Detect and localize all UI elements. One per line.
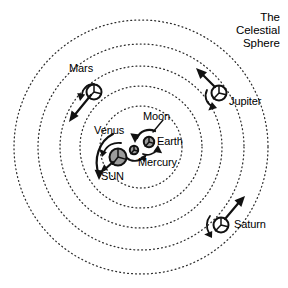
- earth-body-group: [144, 137, 154, 147]
- mercury-label: Mercury: [138, 156, 177, 169]
- figure-title: The Celestial Sphere: [236, 11, 280, 50]
- jupiter-motion-arrow: [196, 68, 215, 87]
- jupiter-label: Jupiter: [229, 95, 261, 108]
- saturn-motion-arrow: [225, 196, 245, 219]
- jupiter-body-group: [212, 86, 227, 101]
- title-line-1: The: [236, 11, 280, 24]
- mars-rotation-arrowhead: [77, 93, 85, 101]
- ring-mars-orbit: [60, 66, 222, 228]
- sun-label: SUN: [101, 170, 124, 183]
- ring-saturn-orbit: [14, 20, 268, 274]
- title-line-2: Celestial: [236, 24, 280, 37]
- ring-venus-orbit: [80, 86, 202, 208]
- moon-label: Moon: [143, 110, 170, 123]
- orbit-rings-group: [14, 20, 268, 274]
- ring-jupiter-orbit: [38, 44, 244, 250]
- saturn-body-group: [214, 218, 229, 233]
- title-line-3: Sphere: [236, 37, 280, 50]
- mars-label: Mars: [69, 62, 93, 75]
- celestial-sphere-figure: The Celestial Sphere Mars Venus Moon Ear…: [0, 0, 288, 288]
- saturn-label: Saturn: [234, 218, 266, 231]
- moon-orbit-arrowhead: [130, 133, 139, 143]
- earth-label: Earth: [157, 135, 183, 148]
- mercury-body-group: [130, 146, 138, 154]
- venus-label: Venus: [94, 124, 124, 137]
